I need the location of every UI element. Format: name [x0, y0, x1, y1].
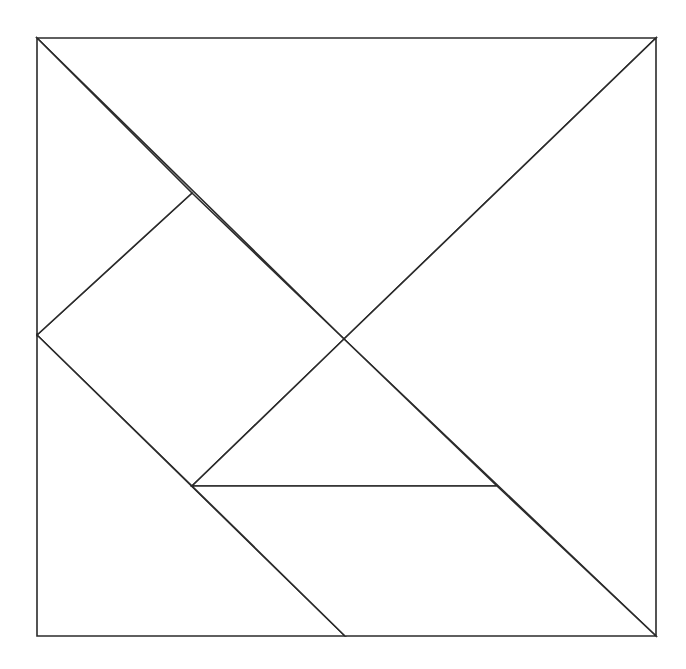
tangram-diagram: [0, 0, 686, 669]
